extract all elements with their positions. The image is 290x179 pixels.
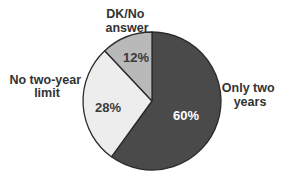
slice-value-only-two-years: 60%: [173, 108, 199, 123]
category-label-dk-no-answer: DK/No answer: [105, 7, 148, 35]
slice-value-no-two-year-limit: 28%: [95, 100, 121, 115]
category-label-only-two-years: Only two years: [222, 81, 278, 109]
slice-value-dk-no-answer: 12%: [123, 50, 149, 65]
category-label-no-two-year-limit: No two-year limit: [9, 73, 84, 100]
pie-chart: 60% 28% 12% DK/No answer No two-year lim…: [0, 0, 290, 179]
